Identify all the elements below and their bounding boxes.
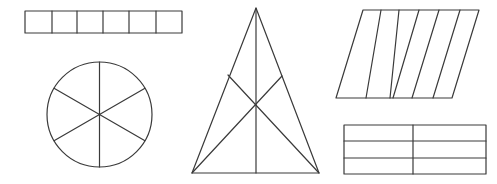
grid-outline: [344, 125, 486, 174]
rectangle-six-grid: [344, 125, 486, 174]
shapes-svg: [0, 0, 497, 184]
strip-divider: [390, 10, 399, 98]
median-line: [228, 75, 319, 173]
strip-divider: [366, 10, 381, 98]
radius-spoke: [100, 115, 145, 141]
median-line: [192, 76, 282, 173]
triangle-six-parts: [192, 8, 319, 173]
radius-spoke: [54, 88, 99, 114]
radius-spoke: [100, 88, 145, 114]
radius-spoke: [54, 115, 99, 141]
rectangle-six-columns: [25, 11, 182, 33]
parallelogram-outline: [336, 10, 479, 98]
strip-divider: [393, 10, 419, 98]
parallelogram-six-strips: [336, 10, 479, 98]
circle-six-sectors: [47, 62, 152, 167]
diagram-canvas: [0, 0, 497, 184]
strip-divider: [412, 10, 439, 98]
